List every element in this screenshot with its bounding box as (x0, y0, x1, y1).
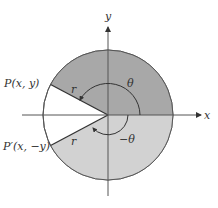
x-axis-label: x (204, 109, 211, 122)
unit-circle-diagram: x y P(x, y) P′(x, −y) r r θ −θ (0, 0, 218, 208)
point-p-prime-label: P′(x, −y) (2, 140, 50, 153)
y-axis-label: y (104, 10, 112, 23)
radius-label-lower: r (71, 135, 77, 148)
neg-theta-label: −θ (119, 133, 135, 146)
theta-label: θ (127, 77, 134, 90)
point-p-label: P(x, y) (3, 77, 39, 90)
radius-label-upper: r (71, 83, 77, 96)
